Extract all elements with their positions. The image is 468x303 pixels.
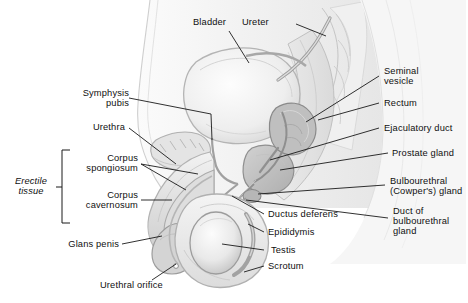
label-prostate-gland: Prostate gland — [392, 148, 454, 158]
label-rectum: Rectum — [384, 98, 417, 108]
label-corpus-spongiosum-line1: Corpus — [70, 153, 138, 163]
label-ejaculatory-duct: Ejaculatory duct — [384, 123, 453, 133]
label-bladder: Bladder — [193, 17, 226, 27]
label-urethra: Urethra — [26, 122, 125, 132]
anatomy-diagram: Bladder Ureter Symphysis pubis Urethra E… — [0, 0, 468, 303]
label-erectile-tissue-line2: tissue — [8, 186, 54, 196]
label-ureter: Ureter — [242, 17, 269, 27]
label-duct-bulbourethral-line3: gland — [393, 226, 417, 236]
label-duct-bulbourethral-line1: Duct of — [393, 206, 424, 216]
label-corpus-cavernosum-line2: cavernosum — [60, 200, 138, 210]
label-seminal-vesicle-line2: vesicle — [384, 76, 413, 86]
label-symphysis-pubis-line1: Symphysis — [26, 88, 129, 98]
label-corpus-cavernosum-line1: Corpus — [70, 190, 138, 200]
label-scrotum: Scrotum — [268, 261, 304, 271]
label-urethral-orifice: Urethral orifice — [100, 280, 163, 290]
label-bulbourethral-gland-line1: Bulbourethral — [390, 176, 447, 186]
label-symphysis-pubis-line2: pubis — [26, 98, 129, 108]
label-epididymis: Epididymis — [268, 227, 314, 237]
label-duct-bulbourethral-line2: bulbourethral — [393, 216, 449, 226]
label-erectile-tissue-line1: Erectile — [8, 176, 54, 186]
scrotum-testis — [175, 194, 269, 287]
label-ductus-deferens: Ductus deferens — [268, 209, 338, 219]
label-corpus-spongiosum-line2: spongiosum — [62, 163, 138, 173]
label-bulbourethral-gland-line2: (Cowper's) gland — [390, 186, 462, 196]
label-seminal-vesicle-line1: Seminal — [384, 66, 419, 76]
label-glans-penis: Glans penis — [48, 239, 119, 249]
label-testis: Testis — [271, 245, 296, 255]
seminal-vesicle-organ — [269, 103, 316, 155]
